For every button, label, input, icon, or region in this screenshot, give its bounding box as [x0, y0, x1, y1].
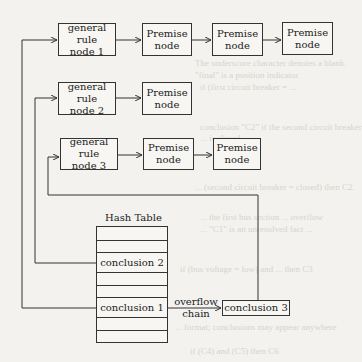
conclusion-3-node: conclusion 3 [222, 300, 290, 316]
hash-row-divider [97, 317, 167, 318]
hash-table-title: Hash Table [105, 212, 162, 223]
node-label: node [155, 99, 180, 111]
overflow-label-line1: overflow [171, 296, 221, 308]
node-label: node 1 [70, 46, 104, 58]
node-label: node [225, 154, 250, 166]
node-label: general rule [59, 81, 115, 105]
node-label: Premise [146, 28, 187, 40]
overflow-chain-label: overflow chain [171, 296, 221, 320]
node-label: node [295, 39, 320, 51]
premise-node: Premise node [282, 22, 333, 55]
hash-row-divider [97, 330, 167, 331]
hash-row-divider [97, 285, 167, 286]
premise-node: Premise node [142, 23, 192, 56]
general-rule-node-1: general rule node 1 [58, 23, 116, 56]
overflow-label-line2: chain [171, 308, 221, 320]
node-label: Premise [287, 27, 328, 39]
premise-node: Premise node [212, 23, 263, 56]
node-label: node 2 [70, 105, 104, 117]
hash-entry-conclusion-2: conclusion 2 [97, 257, 167, 268]
node-label: Premise [217, 28, 258, 40]
node-label: Premise [148, 142, 189, 154]
hash-row-divider [97, 240, 167, 241]
node-label: Premise [146, 87, 187, 99]
node-label: conclusion 3 [224, 302, 288, 314]
node-label: node 3 [72, 160, 106, 172]
node-label: general rule [59, 22, 115, 46]
hash-table: conclusion 2 conclusion 1 [96, 226, 168, 343]
hash-row-divider [97, 272, 167, 273]
hash-row-divider [97, 252, 167, 253]
node-label: general rule [61, 136, 117, 160]
hash-row-divider [97, 297, 167, 298]
premise-node: Premise node [143, 138, 194, 170]
node-label: node [155, 40, 180, 52]
premise-node: Premise node [142, 82, 192, 115]
node-label: node [156, 154, 181, 166]
general-rule-node-2: general rule node 2 [58, 82, 116, 115]
hash-entry-conclusion-1: conclusion 1 [97, 302, 167, 313]
node-label: node [225, 40, 250, 52]
premise-node: Premise node [213, 138, 261, 170]
node-label: Premise [216, 142, 257, 154]
general-rule-node-3: general rule node 3 [60, 138, 118, 170]
